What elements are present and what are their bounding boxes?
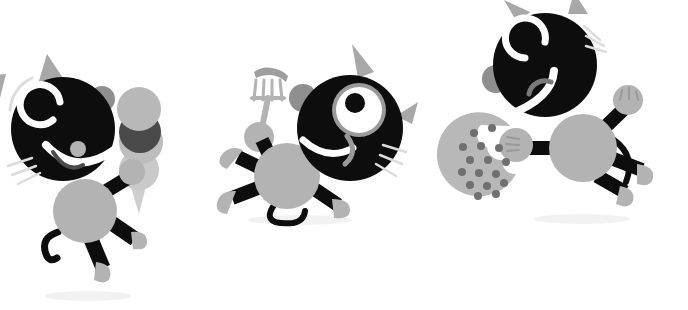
eye-pupil-icon xyxy=(345,93,365,113)
tongue-nose-icon xyxy=(70,141,86,157)
shadow-left-cat xyxy=(44,291,132,301)
paw-holding-cone xyxy=(119,159,145,185)
scoop-top xyxy=(117,87,161,131)
body xyxy=(549,114,617,182)
illustration-canvas xyxy=(0,0,688,310)
body xyxy=(53,179,117,243)
shadow-right-cat xyxy=(534,214,630,224)
cats-illustration xyxy=(0,0,688,310)
